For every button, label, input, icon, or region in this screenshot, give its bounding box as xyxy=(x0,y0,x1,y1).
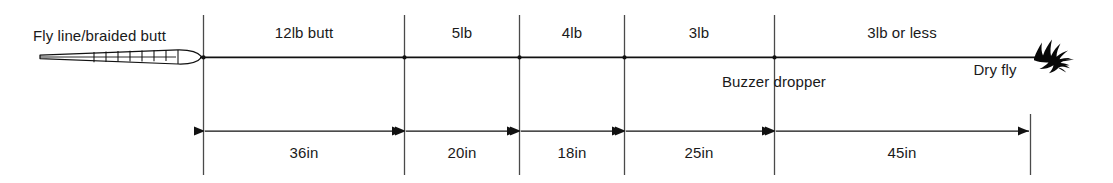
segment-label-tippet-4lb: 4lb xyxy=(562,25,582,40)
segment-label-butt-12lb: 12lb butt xyxy=(275,25,333,40)
dimension-label-36in: 36in xyxy=(290,145,319,160)
dry-fly-icon xyxy=(1034,40,1074,74)
diagram-canvas xyxy=(0,0,1113,183)
label-fly-line-braided-butt: Fly line/braided butt xyxy=(33,28,166,43)
segment-label-tippet-5lb: 5lb xyxy=(452,25,472,40)
dimension-label-25in: 25in xyxy=(685,145,714,160)
dimension-label-20in: 20in xyxy=(448,145,477,160)
dimension-label-18in: 18in xyxy=(558,145,587,160)
leader-diagram: Fly line/braided butt 12lb butt 5lb 4lb … xyxy=(0,0,1113,183)
label-dry-fly: Dry fly xyxy=(973,62,1016,77)
segment-label-tippet-3lb: 3lb xyxy=(689,25,709,40)
dimension-label-45in: 45in xyxy=(888,145,917,160)
segment-label-tippet-3lb-or-less: 3lb or less xyxy=(867,25,936,40)
braided-butt-icon xyxy=(40,50,202,64)
label-buzzer-dropper: Buzzer dropper xyxy=(722,74,826,89)
